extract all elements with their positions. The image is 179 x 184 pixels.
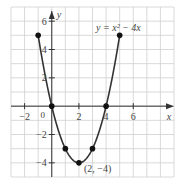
equation-label: y = x² − 4x [95,22,141,33]
y-tick-label: 6 [42,16,47,27]
parabola-chart: −2246−4−22460xy y = x² − 4x (2, −4) [0,0,179,184]
x-axis-arrow-icon [166,103,174,109]
y-tick-label: −4 [36,157,47,168]
grid-lines [11,7,174,177]
y-tick-label: 4 [42,44,47,55]
data-point [103,103,109,109]
vertex-annotation: (2, −4) [84,163,111,175]
x-tick-label: 4 [104,111,109,122]
y-tick-label: 2 [42,72,47,83]
x-tick-label: 2 [76,111,81,122]
data-point [63,146,69,152]
x-axis-label: x [166,111,172,122]
y-axis-label: y [56,9,62,20]
data-point [76,160,82,166]
data-point [49,103,55,109]
x-tick-label: 6 [131,111,136,122]
x-tick-label: −2 [19,111,30,122]
y-tick-label: −2 [36,129,47,140]
y-axis-arrow-icon [49,11,55,19]
data-point [117,33,123,39]
data-point [35,33,41,39]
data-point [90,146,96,152]
origin-label: 0 [41,110,46,120]
